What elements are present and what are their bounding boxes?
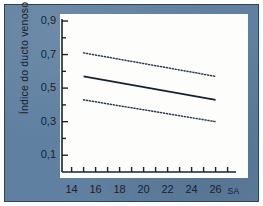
x-axis-tick-label: 16: [83, 184, 109, 195]
x-axis-tick-label: 18: [107, 184, 133, 195]
x-axis-tick-label: 20: [131, 184, 157, 195]
x-axis-tick-label: 26: [203, 184, 229, 195]
figure-container: Índice do ducto venoso 0,90,70,50,30,1 1…: [0, 0, 263, 206]
x-axis-tick-label: 14: [59, 184, 85, 195]
x-axis-unit-label: SA: [228, 187, 240, 196]
x-axis-tick-label: 24: [179, 184, 205, 195]
x-axis-tick-label: 22: [155, 184, 181, 195]
x-axis-tick-labels: 14161820222426: [0, 0, 263, 206]
